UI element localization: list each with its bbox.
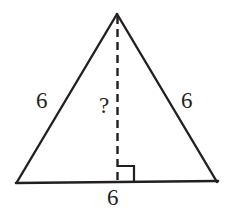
label-left-side: 6 [36, 89, 48, 112]
label-base: 6 [107, 186, 119, 209]
label-right-side: 6 [181, 89, 193, 112]
label-height-unknown: ? [99, 94, 109, 117]
triangle-diagram [0, 0, 231, 216]
geometry-figure: 6 6 ? 6 [0, 0, 231, 216]
